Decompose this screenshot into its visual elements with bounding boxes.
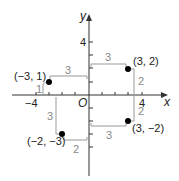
x-tick-label-neg4: −4 bbox=[25, 97, 38, 109]
distance-label: 3 bbox=[105, 51, 111, 63]
x-axis-label: x bbox=[163, 95, 171, 109]
distance-label: 3 bbox=[106, 129, 112, 141]
distance-label: 3 bbox=[65, 64, 71, 76]
origin-label: O bbox=[78, 96, 87, 110]
point-label: (3, −2) bbox=[132, 122, 164, 134]
y-axis-label: y bbox=[79, 9, 87, 23]
point-label: (3, 2) bbox=[133, 55, 159, 67]
coordinate-plane: y x O −4 4 4 3 2 3 1 2 3 3 2 (3, 2) (−3,… bbox=[0, 0, 179, 181]
point-3-neg2 bbox=[125, 118, 131, 124]
point-label: (−3, 1) bbox=[14, 70, 46, 82]
point-3-2 bbox=[125, 66, 131, 72]
distance-label: 2 bbox=[138, 75, 144, 87]
y-axis-arrow-icon bbox=[86, 14, 92, 21]
distance-label: 3 bbox=[47, 110, 53, 122]
distance-label: 2 bbox=[73, 143, 79, 155]
distance-label: 1 bbox=[36, 83, 42, 95]
point-neg3-1 bbox=[46, 79, 52, 85]
y-tick-label-4: 4 bbox=[80, 36, 86, 48]
point-label: (−2, −3) bbox=[27, 135, 66, 147]
distance-label: 2 bbox=[138, 105, 144, 117]
